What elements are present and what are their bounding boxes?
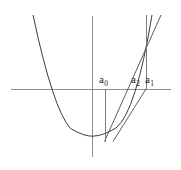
label-a2-subscript: 2: [136, 79, 140, 88]
label-a2: a2: [131, 74, 140, 85]
label-a1-subscript: 1: [150, 79, 154, 88]
label-a0-subscript: 0: [104, 79, 108, 88]
newton-method-figure: a0 a2 a1: [0, 0, 181, 170]
label-a0: a0: [99, 74, 108, 85]
label-a1: a1: [145, 74, 154, 85]
tangent-line-at-a1: [113, 89, 146, 142]
